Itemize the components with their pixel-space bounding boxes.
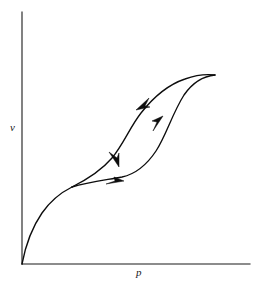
curve-group	[22, 75, 215, 264]
axes-group	[22, 12, 250, 264]
hysteresis-plot	[0, 0, 262, 289]
curve-common-stem	[22, 187, 72, 264]
x-axis-label: p	[136, 267, 142, 278]
figure-container: v p	[0, 0, 262, 289]
curve-lower-branch	[72, 75, 215, 187]
arrow-group	[106, 98, 163, 184]
arrow-lower-right-icon	[106, 177, 124, 184]
curve-upper-branch	[72, 75, 215, 187]
y-axis-label: v	[10, 122, 15, 133]
arrow-lower-upright-icon	[152, 116, 163, 131]
